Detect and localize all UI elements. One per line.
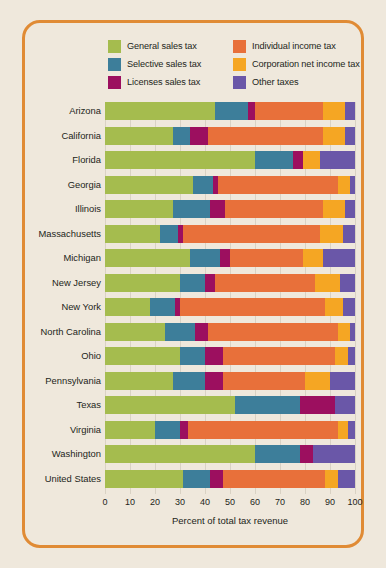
bar-segment[interactable] (350, 323, 355, 341)
bar-segment[interactable] (300, 396, 335, 414)
bar-segment[interactable] (338, 470, 356, 488)
bar-segment[interactable] (205, 347, 223, 365)
bar-segment[interactable] (320, 151, 355, 169)
bar-segment[interactable] (293, 151, 303, 169)
legend-item-individual_income[interactable]: Individual income tax (233, 40, 358, 53)
bar-segment[interactable] (345, 127, 355, 145)
bar-segment[interactable] (345, 200, 355, 218)
bar-segment[interactable] (195, 323, 208, 341)
bar-segment[interactable] (223, 372, 306, 390)
bar-segment[interactable] (173, 200, 211, 218)
bar-segment[interactable] (105, 347, 180, 365)
bar-segment[interactable] (323, 200, 346, 218)
bar-segment[interactable] (190, 249, 220, 267)
bar-segment[interactable] (303, 249, 323, 267)
bar-segment[interactable] (188, 421, 338, 439)
bar-segment[interactable] (180, 274, 205, 292)
bar-segment[interactable] (183, 470, 211, 488)
bar-segment[interactable] (300, 445, 313, 463)
bar-segment[interactable] (183, 225, 321, 243)
bar-segment[interactable] (215, 274, 315, 292)
bar-segment[interactable] (303, 151, 321, 169)
bar-segment[interactable] (340, 274, 355, 292)
bar-segment[interactable] (205, 274, 215, 292)
bar-segment[interactable] (255, 151, 293, 169)
bar-segment[interactable] (338, 176, 351, 194)
bar-segment[interactable] (343, 298, 356, 316)
bar-segment[interactable] (173, 372, 206, 390)
legend-item-licenses_sales[interactable]: Licenses sales tax (108, 76, 233, 89)
bar-segment[interactable] (338, 421, 348, 439)
bar-segment[interactable] (330, 372, 355, 390)
bar-segment[interactable] (313, 445, 356, 463)
bar-segment[interactable] (105, 470, 183, 488)
bar-segment[interactable] (345, 102, 355, 120)
bar-segment[interactable] (105, 200, 173, 218)
bar-segment[interactable] (338, 323, 351, 341)
bar-segment[interactable] (105, 225, 160, 243)
bar-segment[interactable] (193, 176, 213, 194)
bar-segment[interactable] (105, 396, 235, 414)
bar-segment[interactable] (315, 274, 340, 292)
bar-segment[interactable] (325, 298, 343, 316)
bar-segment[interactable] (210, 470, 223, 488)
bar-segment[interactable] (180, 298, 325, 316)
bar-segment[interactable] (348, 347, 356, 365)
bar-segment[interactable] (215, 102, 248, 120)
bar-row-label: Illinois (0, 200, 101, 218)
legend-label-corporation_net_income: Corporation net income tax (252, 59, 360, 69)
bar-segment[interactable] (105, 323, 165, 341)
bar-row: United States (105, 470, 355, 488)
bar-segment[interactable] (235, 396, 300, 414)
bar-segment[interactable] (180, 347, 205, 365)
bar-segment[interactable] (218, 176, 338, 194)
bar-segment[interactable] (210, 200, 225, 218)
bar-segment[interactable] (105, 372, 173, 390)
bar-segment[interactable] (323, 249, 356, 267)
bar-segment[interactable] (348, 421, 356, 439)
legend-item-general_sales[interactable]: General sales tax (108, 40, 233, 53)
bar-segment[interactable] (255, 445, 300, 463)
bar-segment[interactable] (343, 225, 356, 243)
bar-segment[interactable] (165, 323, 195, 341)
bar-segment[interactable] (180, 421, 188, 439)
bar-segment[interactable] (335, 396, 355, 414)
bar-segment[interactable] (225, 200, 323, 218)
bar-segment[interactable] (173, 127, 191, 145)
bar-segment[interactable] (105, 176, 193, 194)
bar-segment[interactable] (105, 127, 173, 145)
bar-segment[interactable] (325, 470, 338, 488)
bar-row-label: Michigan (0, 249, 101, 267)
bar-segment[interactable] (105, 298, 150, 316)
bar-segment[interactable] (208, 323, 338, 341)
bar-segment[interactable] (255, 102, 323, 120)
bar-segment[interactable] (248, 102, 256, 120)
legend-item-corporation_net_income[interactable]: Corporation net income tax (233, 58, 358, 71)
bar-segment[interactable] (205, 372, 223, 390)
legend-item-other[interactable]: Other taxes (233, 76, 358, 89)
bar-segment[interactable] (223, 347, 336, 365)
bar-segment[interactable] (105, 249, 190, 267)
bar-segment[interactable] (105, 274, 180, 292)
legend-row: General sales taxIndividual income tax (108, 38, 358, 54)
bar-segment[interactable] (230, 249, 303, 267)
bar-segment[interactable] (220, 249, 230, 267)
bar-segment[interactable] (190, 127, 208, 145)
bar-segment[interactable] (323, 102, 346, 120)
bar-segment[interactable] (105, 421, 155, 439)
bar-segment[interactable] (223, 470, 326, 488)
bar-segment[interactable] (160, 225, 178, 243)
bar-segment[interactable] (105, 151, 255, 169)
bar-segment[interactable] (105, 102, 215, 120)
legend-row: Licenses sales taxOther taxes (108, 74, 358, 90)
bar-segment[interactable] (320, 225, 343, 243)
bar-segment[interactable] (208, 127, 323, 145)
bar-segment[interactable] (335, 347, 348, 365)
bar-segment[interactable] (305, 372, 330, 390)
bar-segment[interactable] (350, 176, 355, 194)
bar-segment[interactable] (323, 127, 346, 145)
bar-segment[interactable] (105, 445, 255, 463)
legend-item-selective_sales[interactable]: Selective sales tax (108, 58, 233, 71)
bar-segment[interactable] (155, 421, 180, 439)
bar-segment[interactable] (150, 298, 175, 316)
